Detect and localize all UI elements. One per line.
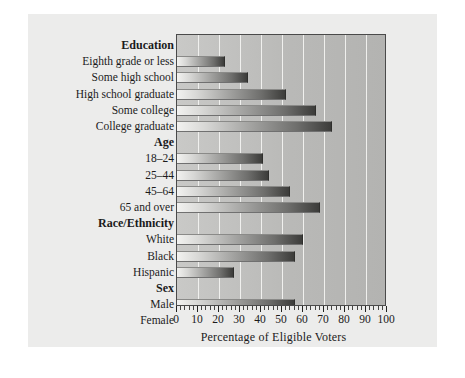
- x-tick-major: [260, 306, 261, 312]
- bar: [177, 251, 295, 262]
- bar: [177, 72, 248, 83]
- x-tick-major: [197, 306, 198, 312]
- x-tick-minor: [256, 306, 257, 310]
- gridline: [324, 35, 325, 305]
- group-header-race-ethnicity: Race/Ethnicity: [98, 217, 174, 229]
- x-tick-label: 10: [191, 313, 203, 325]
- category-label: College graduate: [96, 120, 174, 132]
- x-axis-ticks: [176, 306, 386, 312]
- group-header-sex: Sex: [156, 282, 174, 294]
- x-tick-minor: [285, 306, 286, 310]
- x-tick-minor: [184, 306, 185, 310]
- x-tick-minor: [231, 306, 232, 310]
- figure-panel: EducationEighth grade or lessSome high s…: [28, 14, 437, 347]
- x-tick-major: [344, 306, 345, 312]
- bar: [177, 89, 286, 100]
- x-tick-major: [281, 306, 282, 312]
- category-label: Hispanic: [133, 266, 174, 278]
- x-tick-minor: [180, 306, 181, 310]
- x-tick-major: [302, 306, 303, 312]
- x-tick-label: 0: [173, 313, 179, 325]
- x-tick-minor: [294, 306, 295, 310]
- x-axis-title: Percentage of Eligible Voters: [28, 330, 437, 345]
- x-tick-minor: [327, 306, 328, 310]
- x-tick-minor: [348, 306, 349, 310]
- bar: [177, 153, 263, 164]
- category-label: Black: [147, 250, 174, 262]
- x-tick-minor: [319, 306, 320, 310]
- x-tick-label: 60: [296, 313, 308, 325]
- x-tick-label: 70: [317, 313, 329, 325]
- category-label: 25–44: [145, 169, 174, 181]
- x-tick-minor: [306, 306, 307, 310]
- category-label: White: [146, 233, 174, 245]
- x-tick-major: [365, 306, 366, 312]
- figure-canvas: EducationEighth grade or lessSome high s…: [0, 0, 465, 378]
- x-tick-minor: [273, 306, 274, 310]
- x-tick-label: 100: [377, 313, 394, 325]
- x-tick-minor: [378, 306, 379, 310]
- x-tick-minor: [226, 306, 227, 310]
- x-tick-major: [176, 306, 177, 312]
- plot-area: [176, 34, 386, 306]
- gridline: [345, 35, 346, 305]
- x-tick-label: 50: [275, 313, 287, 325]
- x-tick-minor: [361, 306, 362, 310]
- bar: [177, 299, 295, 306]
- category-label: High school graduate: [76, 88, 174, 100]
- x-tick-minor: [315, 306, 316, 310]
- x-tick-minor: [336, 306, 337, 310]
- category-label: Female: [140, 314, 174, 326]
- bar: [177, 202, 320, 213]
- bar: [177, 121, 332, 132]
- bar-chart: EducationEighth grade or lessSome high s…: [28, 14, 437, 347]
- x-tick-minor: [352, 306, 353, 310]
- category-label: 18–24: [145, 152, 174, 164]
- x-tick-minor: [298, 306, 299, 310]
- x-tick-minor: [210, 306, 211, 310]
- x-tick-major: [239, 306, 240, 312]
- x-tick-minor: [193, 306, 194, 310]
- bar: [177, 186, 290, 197]
- x-tick-major: [323, 306, 324, 312]
- x-tick-label: 40: [254, 313, 266, 325]
- group-header-age: Age: [154, 136, 174, 148]
- category-label: 65 and over: [120, 201, 174, 213]
- gridline: [282, 35, 283, 305]
- x-tick-minor: [373, 306, 374, 310]
- x-axis-title-text: Percentage of Eligible Voters: [201, 330, 347, 344]
- x-tick-minor: [382, 306, 383, 310]
- x-tick-minor: [340, 306, 341, 310]
- x-tick-label: 30: [233, 313, 245, 325]
- x-tick-minor: [310, 306, 311, 310]
- bar: [177, 170, 269, 181]
- x-tick-minor: [201, 306, 202, 310]
- x-tick-minor: [252, 306, 253, 310]
- x-tick-minor: [357, 306, 358, 310]
- gridline: [303, 35, 304, 305]
- group-header-education: Education: [121, 39, 174, 51]
- x-tick-minor: [235, 306, 236, 310]
- x-tick-major: [218, 306, 219, 312]
- x-tick-label: 80: [338, 313, 350, 325]
- x-tick-minor: [331, 306, 332, 310]
- x-tick-minor: [247, 306, 248, 310]
- x-tick-minor: [189, 306, 190, 310]
- x-tick-minor: [277, 306, 278, 310]
- x-tick-minor: [369, 306, 370, 310]
- category-label: 45–64: [145, 185, 174, 197]
- x-tick-minor: [205, 306, 206, 310]
- category-label: Some college: [112, 104, 174, 116]
- x-tick-major: [386, 306, 387, 312]
- x-tick-label: 90: [359, 313, 371, 325]
- category-label: Male: [150, 298, 174, 310]
- x-tick-minor: [214, 306, 215, 310]
- bar: [177, 267, 234, 278]
- x-tick-minor: [222, 306, 223, 310]
- x-tick-minor: [243, 306, 244, 310]
- gridline: [366, 35, 367, 305]
- bar: [177, 56, 225, 67]
- bar: [177, 105, 316, 116]
- category-label: Some high school: [92, 71, 174, 83]
- x-tick-label: 20: [212, 313, 224, 325]
